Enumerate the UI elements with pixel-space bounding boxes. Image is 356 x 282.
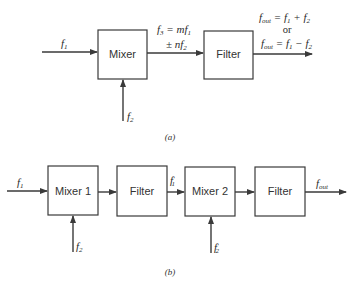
f3-equation-line1: f3 = mf1 (157, 23, 191, 37)
caption-a: (a) (165, 132, 176, 142)
fout-label-b: fout (316, 177, 329, 191)
fout-sum-equation: fout = f1 + f2 (259, 11, 310, 25)
filter2-label: Filter (268, 185, 293, 197)
fout-difference-equation: fout = f1 − f2 (261, 37, 312, 51)
f1-label-b: f1 (17, 176, 24, 190)
frequency-mixer-diagram: f1 Mixer f2 f3 = mf1 ± nf2 Filter fout =… (0, 0, 356, 282)
f2-label-b: f2 (76, 240, 83, 254)
or-label: or (283, 24, 292, 35)
filter-label: Filter (216, 48, 241, 60)
f3-equation-line2: ± nf2 (166, 38, 187, 52)
diagram-a: f1 Mixer f2 f3 = mf1 ± nf2 Filter fout =… (42, 11, 312, 142)
mixer-label: Mixer (109, 48, 136, 60)
f2-label: f2 (127, 110, 134, 124)
f2-prime-label: f′2 (214, 241, 220, 255)
diagram-b: f1 Mixer 1 f2 Filter f′1 Mixer 2 f′2 Fil… (7, 166, 346, 277)
f1-label: f1 (61, 37, 68, 51)
caption-b: (b) (165, 267, 176, 277)
mixer1-label: Mixer 1 (55, 185, 91, 197)
filter1-label: Filter (130, 185, 155, 197)
mixer2-label: Mixer 2 (192, 185, 228, 197)
f1-prime-label: f′1 (170, 174, 175, 188)
